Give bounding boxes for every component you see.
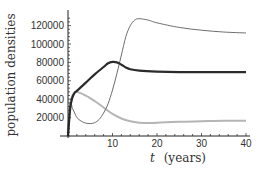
x-tick-label: 30 [196, 138, 208, 149]
series-line-thin-medium [68, 19, 246, 136]
y-ticks: 20000400006000080000100000120000 [31, 18, 71, 136]
y-tick-label: 40000 [36, 94, 64, 105]
series-line-thick-dark [68, 62, 246, 136]
x-axis-unit: (years) [164, 151, 206, 165]
x-ticks: 10203040 [68, 133, 252, 149]
y-tick-label: 60000 [36, 75, 64, 86]
series-line-light-gray [68, 92, 246, 136]
x-tick-label: 10 [107, 138, 119, 149]
x-axis-label: t (years) [150, 151, 206, 165]
y-tick-label: 100000 [31, 39, 65, 50]
axes: 20000400006000080000100000120000 1020304… [31, 10, 252, 149]
y-tick-label: 120000 [31, 20, 65, 31]
x-axis-variable: t [150, 151, 155, 165]
x-tick-label: 40 [240, 138, 252, 149]
y-tick-label: 20000 [36, 112, 64, 123]
y-axis-label: population densities [4, 13, 18, 136]
line-chart: 20000400006000080000100000120000 1020304… [0, 0, 266, 178]
plot-area [68, 19, 246, 136]
x-tick-label: 20 [151, 138, 163, 149]
y-tick-label: 80000 [36, 57, 64, 68]
